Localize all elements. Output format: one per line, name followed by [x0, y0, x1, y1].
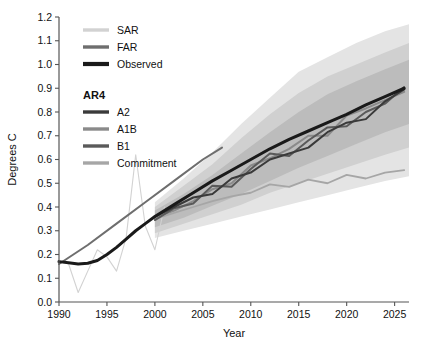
legend-label-commitment: Commitment	[117, 157, 177, 169]
y-tick-label: 0.2	[37, 248, 52, 260]
x-tick-label: 1990	[47, 308, 71, 320]
x-tick-label: 2020	[335, 308, 359, 320]
legend-heading: AR4	[83, 89, 106, 101]
x-tick-label: 2010	[239, 308, 263, 320]
x-tick-label: 2025	[383, 308, 407, 320]
y-tick-label: 0.7	[37, 129, 52, 141]
legend-label-sar: SAR	[117, 24, 139, 36]
y-axis-title: Degrees C	[6, 133, 18, 186]
legend-label-a1b: A1B	[117, 123, 137, 135]
x-axis-title: Year	[223, 327, 246, 339]
y-tick-label: 1.2	[37, 11, 52, 23]
chart-container: 0.00.10.20.30.40.50.60.70.80.91.01.11.21…	[0, 0, 422, 344]
y-tick-label: 0.4	[37, 201, 52, 213]
y-tick-label: 1.0	[37, 58, 52, 70]
legend-label-far: FAR	[117, 41, 138, 53]
y-tick-label: 0.8	[37, 106, 52, 118]
y-tick-label: 0.0	[37, 296, 52, 308]
legend-label-observed: Observed	[117, 58, 163, 70]
legend-label-b1: B1	[117, 140, 130, 152]
y-tick-label: 0.3	[37, 224, 52, 236]
x-tick-label: 2015	[287, 308, 311, 320]
climate-projection-chart: 0.00.10.20.30.40.50.60.70.80.91.01.11.21…	[0, 0, 422, 344]
x-tick-label: 2000	[143, 308, 167, 320]
y-tick-label: 0.1	[37, 272, 52, 284]
legend-label-a2: A2	[117, 106, 130, 118]
x-tick-label: 1995	[95, 308, 119, 320]
y-tick-label: 0.5	[37, 177, 52, 189]
y-tick-label: 0.9	[37, 82, 52, 94]
x-tick-label: 2005	[191, 308, 215, 320]
y-tick-label: 0.6	[37, 153, 52, 165]
series-line-sar	[59, 155, 164, 293]
y-tick-label: 1.1	[37, 34, 52, 46]
